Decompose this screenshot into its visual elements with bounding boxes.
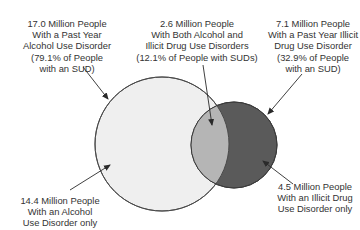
label-line: Use Disorder only <box>265 203 360 214</box>
label-line: With a Past Year Illicit <box>254 29 360 40</box>
label-alcohol-total: 17.0 Million People With a Past Year Alc… <box>6 18 128 74</box>
label-line: (32.9% of People <box>254 52 360 63</box>
label-line: Drug Use Disorder <box>254 40 360 51</box>
label-drug-only: 4.5 Million People With an Illicit Drug … <box>265 181 360 215</box>
label-line: Alcohol Use Disorder <box>6 40 128 51</box>
label-drug-total: 7.1 Million People With a Past Year Illi… <box>254 18 360 74</box>
label-line: 7.1 Million People <box>254 18 360 29</box>
arrow-drug-total <box>268 74 302 114</box>
label-line: Use Disorder only <box>8 217 112 228</box>
label-line: 14.4 Million People <box>8 195 112 206</box>
label-line: 4.5 Million People <box>265 181 360 192</box>
label-both-disorders: 2.6 Million People With Both Alcohol and… <box>136 18 258 63</box>
label-line: 17.0 Million People <box>6 18 128 29</box>
label-line: With a Past Year <box>6 29 128 40</box>
label-line: with an SUD) <box>6 63 128 74</box>
label-line: With Both Alcohol and <box>136 29 258 40</box>
label-line: With an Illicit Drug <box>265 192 360 203</box>
label-line: (12.1% of People with SUDs) <box>136 52 258 63</box>
label-line: (79.1% of People <box>6 52 128 63</box>
label-alcohol-only: 14.4 Million People With an Alcohol Use … <box>8 195 112 229</box>
label-line: With an Alcohol <box>8 206 112 217</box>
label-line: Illicit Drug Use Disorders <box>136 40 258 51</box>
label-line: 2.6 Million People <box>136 18 258 29</box>
label-line: with an SUD) <box>254 63 360 74</box>
